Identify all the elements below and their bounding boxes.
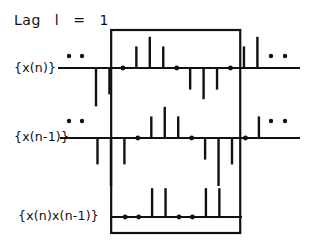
ellipsis-dot	[80, 119, 84, 123]
zero-sample-dot	[190, 215, 195, 220]
zero-sample-dot	[228, 66, 233, 71]
ellipsis-dot	[283, 119, 287, 123]
ellipsis-dot	[67, 54, 71, 58]
ellipsis-dot	[283, 54, 287, 58]
stem-diagram	[0, 0, 311, 249]
zero-sample-dot	[123, 215, 128, 220]
window-box	[111, 30, 240, 233]
zero-sample-dot	[136, 215, 141, 220]
zero-sample-dot	[243, 136, 248, 141]
zero-sample-dot	[121, 66, 126, 71]
ellipsis-dot	[67, 119, 71, 123]
ellipsis-dot	[80, 54, 84, 58]
ellipsis-dot	[269, 119, 273, 123]
zero-sample-dot	[174, 66, 179, 71]
ellipsis-dot	[269, 54, 273, 58]
zero-sample-dot	[189, 136, 194, 141]
zero-sample-dot	[135, 136, 140, 141]
zero-sample-dot	[177, 215, 182, 220]
